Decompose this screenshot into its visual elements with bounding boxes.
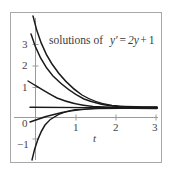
equation-plus: +: [140, 34, 147, 46]
x-tick-label-3: 3: [152, 122, 158, 133]
y-tick-label-1: 1: [22, 82, 28, 93]
figure-title: solutions of y′=2y+1: [49, 35, 155, 47]
equation-lhs: y′: [110, 34, 118, 46]
y-tick-label-2: 2: [22, 60, 28, 71]
solution-curve-3: [28, 81, 157, 108]
x-tick-label-2: 2: [113, 122, 119, 133]
y-tick-label-minus-1: −1: [17, 139, 29, 150]
equation-constant: 1: [149, 34, 155, 46]
x-axis-label: t: [93, 133, 96, 144]
y-tick-label-3: 3: [22, 39, 28, 50]
y-tick-label-0: 0: [22, 118, 28, 129]
ode-solutions-figure: solutions of y′=2y+1 3 2 1 0 −1 1 2 3 t: [0, 0, 172, 176]
equation-equals: =: [120, 34, 127, 46]
equation-rhs: 2y: [128, 34, 139, 46]
x-tick-label-1: 1: [73, 122, 79, 133]
solution-curve-1: [33, 16, 157, 107]
figure-title-words: solutions of: [49, 34, 103, 46]
